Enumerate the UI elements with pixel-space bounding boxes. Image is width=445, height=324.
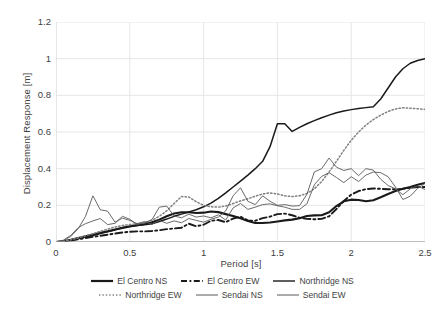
series-line-el-centro-ns <box>56 183 425 242</box>
legend-item-label: Sendai NS <box>222 290 263 300</box>
x-tick-label: 2 <box>336 247 366 258</box>
chart-legend-row-2: Northridge EWSendai NSSendai EW <box>0 290 445 300</box>
y-tick-label: 1.2 <box>23 16 51 27</box>
y-tick-label: 1 <box>23 53 51 64</box>
series-lines <box>56 59 425 242</box>
y-tick-label: 0.6 <box>23 126 51 137</box>
displacement-response-spectrum-chart: Displacement Response [m] 00.20.40.60.81… <box>0 0 445 324</box>
legend-line-thin-icon <box>277 291 299 299</box>
legend-line-dashed-icon <box>181 277 203 285</box>
y-tick-label: 0 <box>23 236 51 247</box>
x-tick-label: 0 <box>41 247 71 258</box>
y-tick-label: 0.4 <box>23 163 51 174</box>
legend-line-solid-icon <box>91 277 113 285</box>
legend-item-northridge-ew[interactable]: Northridge EW <box>99 290 181 300</box>
legend-item-el-centro-ns[interactable]: El Centro NS <box>91 276 167 286</box>
x-tick-label: 0.5 <box>115 247 145 258</box>
chart-legend-row-1: El Centro NSEl Centro EWNorthridge NS <box>0 276 445 286</box>
legend-line-solid-icon <box>273 277 295 285</box>
legend-item-el-centro-ew[interactable]: El Centro EW <box>181 276 259 286</box>
plot-svg <box>56 22 425 242</box>
legend-item-northridge-ns[interactable]: Northridge NS <box>273 276 353 286</box>
legend-item-sendai-ew[interactable]: Sendai EW <box>277 290 346 300</box>
legend-item-label: Northridge NS <box>299 276 353 286</box>
legend-line-dotted-icon <box>99 291 121 299</box>
legend-item-sendai-ns[interactable]: Sendai NS <box>196 290 263 300</box>
x-axis-title: Period [s] <box>56 258 426 269</box>
grid-lines <box>56 22 425 242</box>
legend-item-label: El Centro NS <box>117 276 167 286</box>
plot-area <box>56 22 425 242</box>
series-line-el-centro-ew <box>56 187 425 242</box>
y-tick-label: 0.8 <box>23 89 51 100</box>
x-tick-label: 2.5 <box>410 247 440 258</box>
legend-item-label: El Centro EW <box>207 276 259 286</box>
series-line-northridge-ew <box>56 108 425 242</box>
legend-item-label: Sendai EW <box>303 290 346 300</box>
legend-item-label: Northridge EW <box>125 290 181 300</box>
x-tick-label: 1.5 <box>262 247 292 258</box>
x-tick-label: 1 <box>189 247 219 258</box>
series-line-northridge-ns <box>56 59 425 242</box>
legend-line-thin-icon <box>196 291 218 299</box>
y-tick-label: 0.2 <box>23 199 51 210</box>
